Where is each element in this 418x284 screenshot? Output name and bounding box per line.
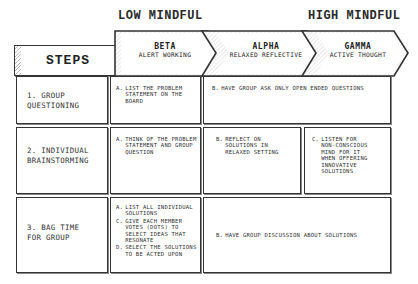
beta-cell-2: A.THINK OF THE PROBLEM STATEMENT AND GRO… <box>110 127 201 194</box>
merged-cell-1: B.HAVE GROUP ASK ONLY OPEN ENDED QUESTIO… <box>203 76 391 124</box>
list-item: A.LIST ALL INDIVIDUAL SOLUTIONS <box>116 204 198 217</box>
steps-title: STEPS <box>46 53 90 68</box>
phase-gamma-subtitle: ACTIVE THOUGHT <box>320 51 396 58</box>
step-label-2: 2. INDIVIDUAL BRAINSTORMING <box>27 146 105 166</box>
phase-beta-title: BETA <box>122 42 208 51</box>
step-cell-2: 2. INDIVIDUAL BRAINSTORMING <box>16 127 108 194</box>
phase-gamma: GAMMA ACTIVE THOUGHT <box>320 42 396 58</box>
low-mindful-label: LOW MINDFUL <box>118 9 203 23</box>
steps-header: STEPS <box>14 45 116 76</box>
phase-gamma-title: GAMMA <box>320 42 396 51</box>
beta-cell-1: A.LIST THE PROBLEM STATEMENT ON THE BOAR… <box>110 76 201 124</box>
alpha-cell-2: B.REFLECT ON SOLUTIONS IN RELAXED SETTIN… <box>203 127 301 194</box>
phase-alpha: ALPHA RELAXED REFLECTIVE <box>218 42 314 58</box>
list-item: B.REFLECT ON SOLUTIONS IN RELAXED SETTIN… <box>216 136 286 155</box>
phase-alpha-subtitle: RELAXED REFLECTIVE <box>218 51 314 58</box>
list-item: D.SELECT THE SOLUTIONS TO BE ACTED UPON <box>116 244 198 257</box>
phase-alpha-title: ALPHA <box>218 42 314 51</box>
merged-cell-3: B.HAVE GROUP DISCUSSION ABOUT SOLUTIONS <box>203 197 391 273</box>
list-item: A.LIST THE PROBLEM STATEMENT ON THE BOAR… <box>116 85 196 104</box>
list-item: A.THINK OF THE PROBLEM STATEMENT AND GRO… <box>116 136 198 155</box>
phase-beta: BETA ALERT WORKING <box>122 42 208 58</box>
list-item: C.GIVE EACH MEMBER VOTES (DOTS) TO SELEC… <box>116 218 198 244</box>
gamma-cell-2: C.LISTEN FOR NON-CONSCIOUS MIND FOR IT W… <box>304 127 391 194</box>
step-label-3: 3. BAG TIME FOR GROUP <box>27 223 87 243</box>
step-cell-3: 3. BAG TIME FOR GROUP <box>16 197 108 273</box>
list-item: C.LISTEN FOR NON-CONSCIOUS MIND FOR IT W… <box>312 136 374 174</box>
list-item: B.HAVE GROUP DISCUSSION ABOUT SOLUTIONS <box>216 232 386 238</box>
step-cell-1: 1. GROUP QUESTIONING <box>16 76 108 124</box>
high-mindful-label: HIGH MINDFUL <box>308 9 400 23</box>
phase-beta-subtitle: ALERT WORKING <box>122 51 208 58</box>
list-item: B.HAVE GROUP ASK ONLY OPEN ENDED QUESTIO… <box>212 85 387 91</box>
step-label-1: 1. GROUP QUESTIONING <box>27 91 103 111</box>
beta-cell-3: A.LIST ALL INDIVIDUAL SOLUTIONS C.GIVE E… <box>110 197 201 273</box>
